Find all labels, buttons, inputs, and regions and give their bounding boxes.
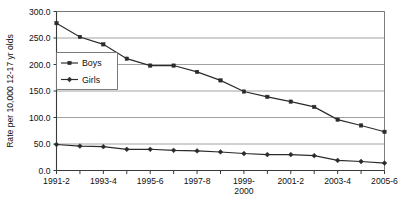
y-tick-label: 100.0 bbox=[29, 113, 51, 123]
data-point-boys bbox=[359, 124, 362, 127]
x-tick-label-second-line: 2000 bbox=[234, 186, 253, 196]
x-tick-label: 1997-8 bbox=[184, 176, 211, 186]
x-tick-label: 1991-2 bbox=[43, 176, 70, 186]
data-point-boys bbox=[102, 43, 105, 46]
data-point-boys bbox=[266, 95, 269, 98]
y-axis-title-text: Rate per 10,000 12-17 yr olds bbox=[5, 34, 15, 148]
chart-legend[interactable]: BoysGirls bbox=[57, 53, 118, 90]
y-tick-label: 250.0 bbox=[29, 33, 51, 43]
x-tick-label: 1993-4 bbox=[90, 176, 117, 186]
x-tick-label: 2003-4 bbox=[324, 176, 351, 186]
chart-canvas: 0.050.0100.0150.0200.0250.0300.0 1991-21… bbox=[0, 0, 407, 207]
y-tick-label: 0.0 bbox=[39, 166, 51, 176]
x-tick-label: 2005-6 bbox=[371, 176, 398, 186]
data-point-boys bbox=[383, 130, 386, 133]
y-axis-title: Rate per 10,000 12-17 yr olds bbox=[5, 34, 15, 148]
data-point-boys bbox=[242, 90, 245, 93]
data-point-boys bbox=[55, 21, 58, 24]
data-point-boys bbox=[219, 79, 222, 82]
legend-label-girls[interactable]: Girls bbox=[82, 75, 101, 85]
y-tick-label: 150.0 bbox=[29, 86, 51, 96]
data-point-boys bbox=[172, 64, 175, 67]
y-tick-label: 300.0 bbox=[29, 7, 51, 17]
x-tick-label: 1995-6 bbox=[137, 176, 164, 186]
data-point-boys bbox=[149, 64, 152, 67]
data-point-boys bbox=[336, 118, 339, 121]
data-point-boys bbox=[125, 57, 128, 60]
y-tick-label: 50.0 bbox=[34, 139, 51, 149]
legend-marker-boys bbox=[68, 61, 71, 64]
data-point-boys bbox=[78, 35, 81, 38]
data-point-boys bbox=[195, 70, 198, 73]
x-tick-label: 1999- bbox=[233, 176, 255, 186]
data-point-boys bbox=[289, 100, 292, 103]
line-chart: 0.050.0100.0150.0200.0250.0300.0 1991-21… bbox=[0, 0, 407, 207]
data-point-boys bbox=[313, 105, 316, 108]
legend-label-boys[interactable]: Boys bbox=[82, 58, 102, 68]
x-tick-label: 2001-2 bbox=[277, 176, 304, 186]
y-tick-label: 200.0 bbox=[29, 60, 51, 70]
